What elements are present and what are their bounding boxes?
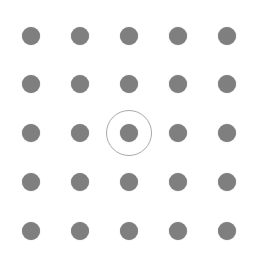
pattern-dot-r0-c0[interactable] <box>22 27 40 45</box>
pattern-dot-r2-c1[interactable] <box>71 124 89 142</box>
pattern-dot-r0-c1[interactable] <box>71 27 89 45</box>
pattern-dot-r3-c3[interactable] <box>169 173 187 191</box>
pattern-dot-r3-c0[interactable] <box>22 173 40 191</box>
pattern-dot-r4-c1[interactable] <box>71 222 89 240</box>
selected-dot-ring <box>106 110 152 156</box>
pattern-dot-r1-c1[interactable] <box>71 75 89 93</box>
pattern-dot-r1-c2[interactable] <box>120 75 138 93</box>
pattern-dot-r4-c4[interactable] <box>218 222 236 240</box>
pattern-dot-r0-c2[interactable] <box>120 27 138 45</box>
pattern-dot-r0-c3[interactable] <box>169 27 187 45</box>
pattern-dot-r1-c3[interactable] <box>169 75 187 93</box>
pattern-dot-r2-c3[interactable] <box>169 124 187 142</box>
pattern-dot-r2-c4[interactable] <box>218 124 236 142</box>
pattern-dot-r3-c2[interactable] <box>120 173 138 191</box>
pattern-dot-r1-c4[interactable] <box>218 75 236 93</box>
pattern-dot-r1-c0[interactable] <box>22 75 40 93</box>
pattern-dot-r3-c4[interactable] <box>218 173 236 191</box>
pattern-dot-r0-c4[interactable] <box>218 27 236 45</box>
pattern-dot-r2-c0[interactable] <box>22 124 40 142</box>
pattern-dot-r4-c3[interactable] <box>169 222 187 240</box>
pattern-dot-r3-c1[interactable] <box>71 173 89 191</box>
pattern-grid[interactable] <box>0 0 264 270</box>
pattern-dot-r4-c2[interactable] <box>120 222 138 240</box>
pattern-dot-r4-c0[interactable] <box>22 222 40 240</box>
